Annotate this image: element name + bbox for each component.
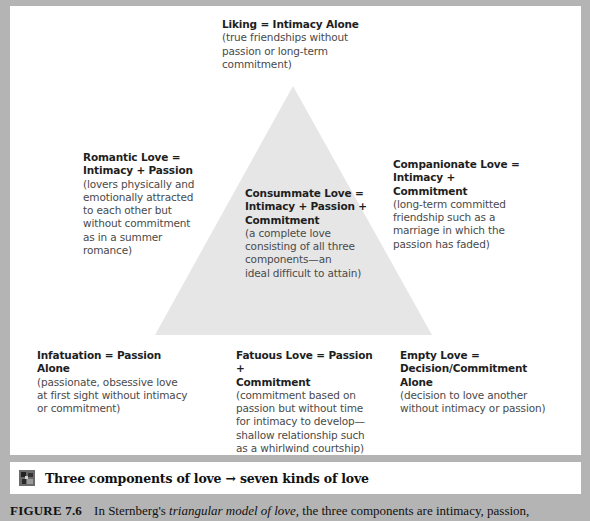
node-infatuation: Infatuation = Passion Alone (passionate,… <box>37 349 197 415</box>
node-infatuation-title: Infatuation = Passion Alone <box>37 349 197 376</box>
figure-caption-italic: triangular model of love, <box>169 503 299 518</box>
node-companionate: Companionate Love = Intimacy + Commitmen… <box>393 158 523 251</box>
node-infatuation-desc: (passionate, obsessive love at first sig… <box>37 376 197 416</box>
node-romantic-title: Romantic Love = Intimacy + Passion <box>83 151 213 178</box>
node-romantic-desc: (lovers physically and emotionally attra… <box>83 178 213 258</box>
figure-caption-text-before: In Sternberg's <box>94 503 169 518</box>
node-romantic: Romantic Love = Intimacy + Passion (love… <box>83 151 213 257</box>
node-liking-title: Liking = Intimacy Alone <box>222 18 372 31</box>
node-consummate-desc: (a complete love consisting of all three… <box>245 227 375 280</box>
figure-caption: FIGURE 7.6In Sternberg's triangular mode… <box>10 503 529 519</box>
node-fatuous-title: Fatuous Love = Passion + Commitment <box>236 349 376 389</box>
node-liking: Liking = Intimacy Alone (true friendship… <box>222 18 372 71</box>
node-empty-title: Empty Love = Decision/Commitment Alone <box>400 349 560 389</box>
concept-caption-band: Three components of love → seven kinds o… <box>10 462 581 494</box>
node-liking-desc: (true friendships without passion or lon… <box>222 31 372 71</box>
node-fatuous-desc: (commitment based on passion but without… <box>236 389 376 455</box>
node-empty: Empty Love = Decision/Commitment Alone (… <box>400 349 560 415</box>
figure-number: FIGURE 7.6 <box>10 503 82 518</box>
node-companionate-title: Companionate Love = Intimacy + Commitmen… <box>393 158 523 198</box>
node-empty-desc: (decision to love another without intima… <box>400 389 560 416</box>
figure-caption-text-after: the three components are intimacy, passi… <box>299 503 529 518</box>
concept-map-icon <box>19 470 35 486</box>
node-companionate-desc: (long-term committed friendship such as … <box>393 198 523 251</box>
node-consummate-title: Consummate Love = Intimacy + Passion + C… <box>245 187 375 227</box>
node-fatuous: Fatuous Love = Passion + Commitment (com… <box>236 349 376 455</box>
concept-caption-text: Three components of love → seven kinds o… <box>45 471 369 486</box>
diagram-panel: Liking = Intimacy Alone (true friendship… <box>10 6 581 455</box>
node-consummate: Consummate Love = Intimacy + Passion + C… <box>245 187 375 280</box>
